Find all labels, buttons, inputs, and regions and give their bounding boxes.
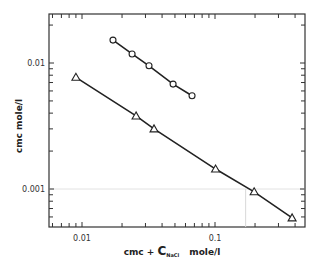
triangle-marker [132,112,140,119]
circle-marker [129,51,135,57]
axis-ticks [49,14,305,227]
triangle-marker [72,73,80,80]
y-tick-label: 0.001 [22,185,45,194]
y-axis-label: cmc mole/l [14,99,24,153]
x-tick-label: 0.1 [209,234,222,243]
triangle-marker [288,214,296,221]
circle-marker [189,93,195,99]
y-tick-label: 0.01 [27,59,45,68]
circle-marker [110,37,116,43]
plot-frame [49,14,305,227]
x-tick-label: 0.01 [73,234,91,243]
series-triangles [72,73,296,221]
x-axis-label: cmc + CNaClmole/l [124,244,221,258]
log-log-chart: 0.010.10.010.001 cmc mole/l cmc + CNaClm… [0,0,319,267]
circle-marker [146,63,152,69]
data-series [72,37,296,221]
circle-marker [170,81,176,87]
series-circles [110,37,195,99]
triangle-marker [212,165,220,172]
